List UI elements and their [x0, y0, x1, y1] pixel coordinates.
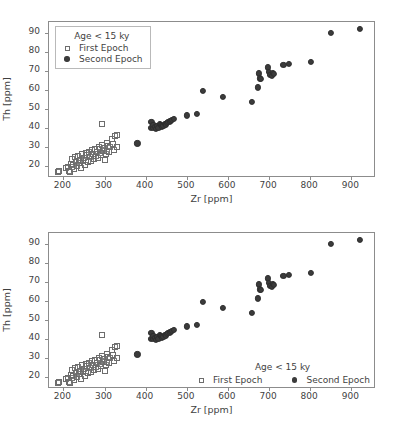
- y-tick-top: [45, 71, 49, 72]
- data-point: [102, 157, 108, 163]
- data-point: [171, 327, 177, 333]
- y-tick-top: [45, 33, 49, 34]
- data-point: [56, 168, 62, 174]
- x-tick-label-top: 800: [301, 180, 318, 190]
- data-point: [254, 84, 260, 90]
- data-point: [114, 144, 120, 150]
- chart-panel-top: Th [ppm] Zr [ppm] Age < 15 ky First Epoc…: [0, 0, 394, 211]
- plot-axes-bottom: Age < 15 ky First Epoch Second Epoch: [48, 232, 375, 388]
- data-point: [99, 121, 105, 127]
- y-tick-bottom: [45, 263, 49, 264]
- data-point: [99, 332, 105, 338]
- y-tick-top: [45, 147, 49, 148]
- x-tick-label-top: 600: [218, 180, 235, 190]
- x-tick-label-bottom: 500: [177, 391, 194, 401]
- data-point: [194, 322, 200, 328]
- y-tick-top: [45, 166, 49, 167]
- x-tick-label-top: 400: [136, 180, 153, 190]
- data-point: [114, 132, 120, 138]
- data-point: [308, 59, 314, 65]
- data-point: [200, 88, 206, 94]
- data-point: [249, 99, 255, 105]
- legend-label-first-epoch-bottom: First Epoch: [213, 375, 262, 385]
- figure-scatter-zr-th: Th [ppm] Zr [ppm] Age < 15 ky First Epoc…: [0, 0, 394, 423]
- open-square-marker-icon: [195, 378, 207, 383]
- y-tick-top: [45, 52, 49, 53]
- data-point: [114, 355, 120, 361]
- y-tick-top: [45, 90, 49, 91]
- y-tick-bottom: [45, 377, 49, 378]
- x-tick-label-top: 500: [177, 180, 194, 190]
- y-tick-bottom: [45, 301, 49, 302]
- legend-entry-second-epoch-top: Second Epoch: [61, 54, 143, 64]
- filled-circle-marker-icon: [288, 377, 300, 382]
- y-tick-top: [45, 128, 49, 129]
- legend-label-second-epoch-top: Second Epoch: [79, 54, 143, 64]
- plot-axes-top: Age < 15 ky First Epoch Second Epoch: [48, 21, 375, 177]
- y-tick-bottom: [45, 244, 49, 245]
- y-tick-bottom: [45, 339, 49, 340]
- y-tick-bottom: [45, 282, 49, 283]
- chart-panel-bottom: Th [ppm] Zr [ppm] Age < 15 ky First Epoc…: [0, 211, 394, 422]
- data-point: [171, 116, 177, 122]
- x-axis-label-bottom: Zr [ppm]: [48, 404, 375, 415]
- data-point: [258, 287, 264, 293]
- data-point: [356, 237, 362, 243]
- legend-label-first-epoch-top: First Epoch: [79, 43, 128, 53]
- y-axis-label-bottom: Th [ppm]: [1, 288, 12, 332]
- x-tick-label-bottom: 800: [301, 391, 318, 401]
- data-point: [356, 26, 362, 32]
- legend-entry-first-epoch-top: First Epoch: [61, 43, 143, 53]
- data-point: [249, 310, 255, 316]
- data-point: [102, 368, 108, 374]
- legend-label-second-epoch-bottom: Second Epoch: [306, 375, 370, 385]
- x-tick-label-bottom: 300: [95, 391, 112, 401]
- data-point: [200, 299, 206, 305]
- x-tick-label-top: 700: [259, 180, 276, 190]
- data-point: [308, 270, 314, 276]
- data-point: [254, 295, 260, 301]
- data-point: [56, 379, 62, 385]
- y-tick-top: [45, 109, 49, 110]
- x-tick-label-bottom: 900: [342, 391, 359, 401]
- data-point: [194, 111, 200, 117]
- x-tick-label-bottom: 700: [259, 391, 276, 401]
- open-square-marker-icon: [61, 46, 73, 51]
- data-point: [328, 241, 334, 247]
- data-point: [286, 61, 292, 67]
- x-tick-label-bottom: 200: [54, 391, 71, 401]
- data-point: [134, 140, 140, 146]
- y-tick-bottom: [45, 320, 49, 321]
- x-tick-label-top: 200: [54, 180, 71, 190]
- data-point: [134, 351, 140, 357]
- data-point: [271, 71, 277, 77]
- data-point: [328, 30, 334, 36]
- y-axis-label-top: Th [ppm]: [1, 77, 12, 121]
- data-point: [271, 282, 277, 288]
- x-tick-label-top: 900: [342, 180, 359, 190]
- x-tick-label-bottom: 400: [136, 391, 153, 401]
- data-point: [184, 112, 190, 118]
- filled-circle-marker-icon: [61, 56, 73, 61]
- data-point: [220, 305, 226, 311]
- legend-entry-first-epoch-bottom: First Epoch: [195, 375, 262, 385]
- data-point: [184, 323, 190, 329]
- x-tick-label-top: 300: [95, 180, 112, 190]
- data-point: [220, 94, 226, 100]
- data-point: [286, 272, 292, 278]
- legend-top: Age < 15 ky First Epoch Second Epoch: [55, 26, 151, 69]
- data-point: [114, 343, 120, 349]
- legend-title-top: Age < 15 ky: [61, 31, 143, 41]
- legend-entry-second-epoch-bottom: Second Epoch: [288, 375, 370, 385]
- x-tick-label-bottom: 600: [218, 391, 235, 401]
- legend-title-bottom: Age < 15 ky: [195, 362, 370, 372]
- data-point: [258, 76, 264, 82]
- x-axis-label-top: Zr [ppm]: [48, 193, 375, 204]
- y-tick-bottom: [45, 358, 49, 359]
- legend-bottom: Age < 15 ky First Epoch Second Epoch: [195, 362, 370, 385]
